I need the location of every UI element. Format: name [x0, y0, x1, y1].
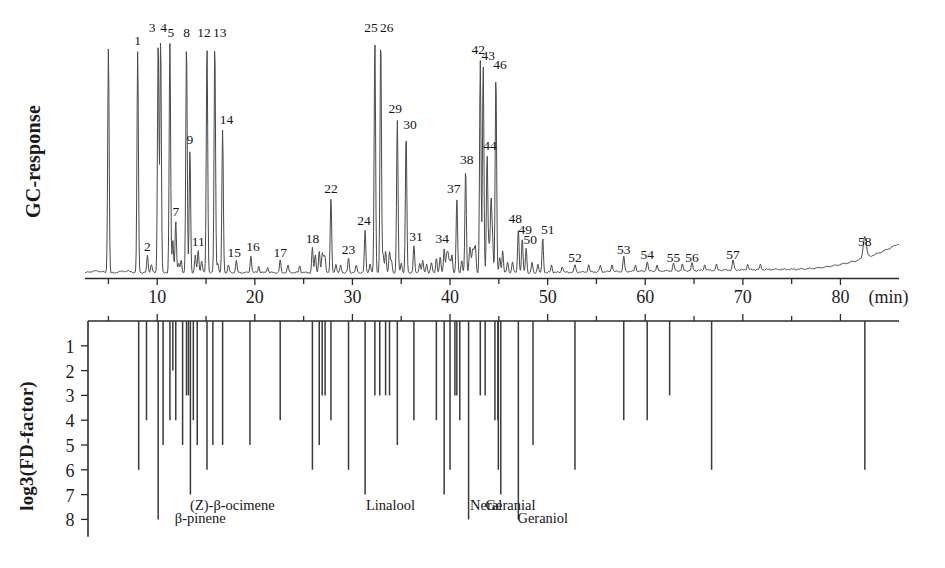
fd-y-tick-label: 2 [66, 362, 75, 382]
peak-number-label: 30 [403, 117, 417, 132]
peak-number-label: 4 [160, 20, 167, 35]
figure-canvas: 1020304050607080(min)1234578911121314151… [0, 0, 945, 568]
compound-annotation: Linalool [366, 497, 415, 513]
figure-root: GC-response log3(FD-factor) 102030405060… [0, 0, 945, 568]
peak-number-label: 46 [493, 57, 507, 72]
peak-number-label: 58 [858, 234, 872, 249]
peak-number-label: 44 [483, 138, 497, 153]
peak-number-label: 25 [364, 20, 378, 35]
peak-number-label: 57 [726, 247, 740, 262]
peak-number-label: 16 [246, 239, 260, 254]
peak-number-label: 26 [380, 20, 394, 35]
compound-annotation: Geraniol [517, 510, 568, 526]
chromatogram-trace [85, 43, 899, 274]
peak-number-label: 3 [149, 20, 156, 35]
peak-number-label: 53 [617, 242, 631, 257]
fd-y-tick-label: 4 [66, 411, 75, 431]
peak-number-label: 56 [685, 250, 699, 265]
peak-number-label: 5 [168, 25, 175, 40]
top-x-tick-label: 20 [246, 287, 264, 307]
fd-y-tick-label: 8 [66, 510, 75, 530]
peak-number-label: 18 [306, 231, 320, 246]
top-x-tick-label: 60 [636, 287, 654, 307]
fd-y-tick-label: 6 [66, 461, 75, 481]
x-unit-label: (min) [868, 287, 908, 308]
peak-number-label: 12 [197, 25, 211, 40]
peak-number-label: 50 [523, 232, 537, 247]
peak-number-label: 9 [187, 132, 194, 147]
top-x-tick-label: 70 [734, 287, 752, 307]
peak-number-label: 11 [192, 234, 205, 249]
peak-number-label: 17 [273, 245, 287, 260]
peak-number-label: 37 [447, 181, 461, 196]
fd-y-tick-label: 5 [66, 436, 75, 456]
peak-number-label: 51 [541, 222, 555, 237]
top-x-tick-label: 40 [441, 287, 459, 307]
peak-number-label: 8 [183, 25, 190, 40]
peak-number-label: 15 [228, 245, 242, 260]
peak-number-label: 22 [324, 181, 338, 196]
peak-number-label: 13 [213, 25, 227, 40]
top-x-tick-label: 80 [831, 287, 849, 307]
peak-number-label: 24 [357, 213, 371, 228]
peak-number-label: 55 [667, 250, 681, 265]
peak-number-label: 34 [435, 231, 449, 246]
peak-number-label: 52 [568, 250, 582, 265]
fd-y-tick-label: 7 [66, 486, 75, 506]
top-x-tick-label: 50 [539, 287, 557, 307]
chromatogram-panel [85, 43, 899, 285]
peak-number-label: 23 [342, 242, 356, 257]
fd-y-tick-label: 3 [66, 386, 75, 406]
peak-number-label: 29 [389, 101, 403, 116]
compound-annotation: (Z)-β-ocimene [190, 497, 275, 514]
peak-number-label: 14 [220, 112, 234, 127]
peak-number-label: 31 [409, 229, 423, 244]
peak-number-label: 2 [144, 239, 151, 254]
top-x-tick-label: 10 [148, 287, 166, 307]
peak-number-label: 38 [460, 152, 474, 167]
fd-y-tick-label: 1 [66, 337, 75, 357]
top-x-tick-label: 30 [343, 287, 361, 307]
peak-number-label: 1 [134, 33, 141, 48]
peak-number-label: 7 [172, 204, 179, 219]
peak-number-label: 54 [640, 247, 654, 262]
